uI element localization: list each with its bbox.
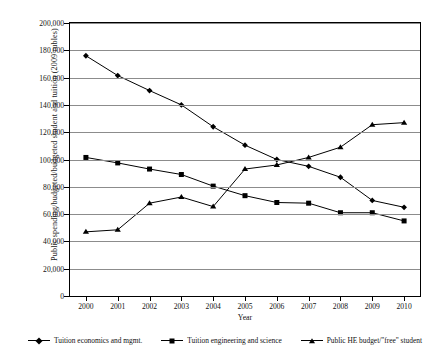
x-tick-mark [277, 297, 278, 301]
diamond-marker-icon [242, 142, 248, 148]
diamond-marker-icon [147, 88, 153, 94]
x-tick-label: 2002 [142, 302, 157, 311]
x-tick-label: 2004 [206, 302, 221, 311]
gridline [70, 241, 420, 242]
legend-item[interactable]: Public HE budget/"free" student [301, 336, 422, 345]
y-tick-label: 200,000 [0, 19, 64, 28]
x-tick-label: 2003 [174, 302, 189, 311]
x-tick-mark [150, 297, 151, 301]
triangle-marker-icon [401, 120, 407, 125]
diamond-marker-icon [210, 124, 216, 130]
legend-label: Public HE budget/"free" student [327, 336, 422, 345]
square-marker-icon [274, 200, 279, 205]
x-tick-label: 2006 [269, 302, 284, 311]
x-tick-label: 2008 [333, 302, 348, 311]
x-tick-mark [245, 297, 246, 301]
y-tick-label: 140,000 [0, 100, 64, 109]
gridline [70, 214, 420, 215]
square-marker-icon [243, 193, 248, 198]
x-axis-title: Year [69, 313, 421, 322]
diamond-marker-icon [83, 53, 89, 59]
y-tick-label: 20,000 [0, 264, 64, 273]
square-marker-icon [306, 201, 311, 206]
triangle-marker-icon [337, 144, 343, 149]
square-marker-icon [402, 218, 407, 223]
x-tick-mark [309, 297, 310, 301]
diamond-marker-icon [401, 204, 407, 210]
series-line [86, 123, 404, 232]
diamond-marker-icon [306, 163, 312, 169]
gridline [70, 105, 420, 106]
square-marker-icon [179, 172, 184, 177]
x-tick-label: 2010 [396, 302, 411, 311]
diamond-marker-icon [35, 337, 42, 344]
x-tick-label: 2007 [301, 302, 316, 311]
legend-marker [28, 336, 50, 345]
plot-area [69, 22, 421, 297]
y-tick-label: 60,000 [0, 210, 64, 219]
x-tick-mark [181, 297, 182, 301]
square-marker-icon [170, 338, 175, 343]
x-tick-mark [372, 297, 373, 301]
y-tick-label: 120,000 [0, 128, 64, 137]
y-tick-label: 80,000 [0, 182, 64, 191]
y-tick-label: 0 [0, 292, 64, 301]
x-tick-mark [340, 297, 341, 301]
chart-legend: Tuition economics and mgmt.Tuition engin… [20, 336, 430, 345]
square-marker-icon [147, 167, 152, 172]
gridline [70, 132, 420, 133]
x-tick-mark [86, 297, 87, 301]
square-marker-icon [115, 160, 120, 165]
y-tick-label: 40,000 [0, 237, 64, 246]
triangle-marker-icon [309, 338, 315, 343]
chart-figure: Public spending/budgeted/budgeted studen… [0, 0, 440, 360]
legend-label: Tuition economics and mgmt. [54, 336, 142, 345]
gridline [70, 50, 420, 51]
x-tick-label: 2009 [365, 302, 380, 311]
x-tick-mark [213, 297, 214, 301]
gridline [70, 160, 420, 161]
y-tick-label: 160,000 [0, 73, 64, 82]
legend-item[interactable]: Tuition economics and mgmt. [28, 336, 142, 345]
x-tick-label: 2001 [110, 302, 125, 311]
data-series [83, 120, 407, 234]
gridline [70, 187, 420, 188]
legend-marker [301, 336, 323, 345]
gridline [70, 78, 420, 79]
x-tick-label: 2000 [78, 302, 93, 311]
legend-marker [161, 336, 183, 345]
x-tick-mark [404, 297, 405, 301]
legend-item[interactable]: Tuition engineering and science [161, 336, 281, 345]
y-tick-label: 180,000 [0, 46, 64, 55]
triangle-marker-icon [178, 194, 184, 199]
y-tick-label: 100,000 [0, 155, 64, 164]
gridline [70, 23, 420, 24]
legend-label: Tuition engineering and science [187, 336, 281, 345]
x-tick-mark [118, 297, 119, 301]
gridline [70, 269, 420, 270]
x-tick-label: 2005 [237, 302, 252, 311]
